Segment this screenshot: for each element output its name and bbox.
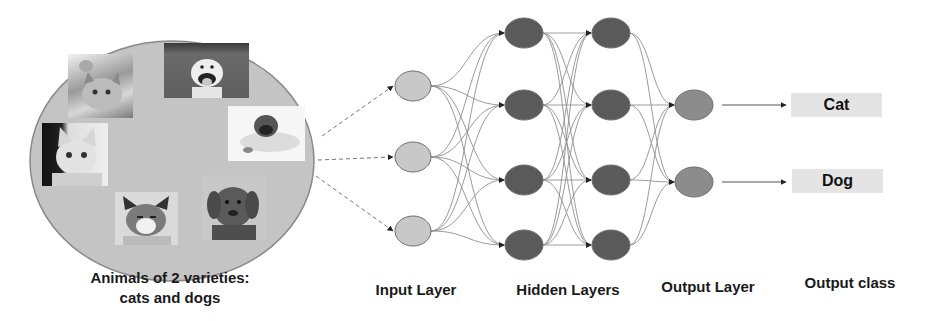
connection-edge bbox=[431, 33, 504, 157]
grumpy-cat-photo bbox=[115, 192, 178, 245]
hidden-node-l1-3 bbox=[505, 165, 543, 195]
input-arrow bbox=[322, 86, 393, 136]
output-node-2 bbox=[675, 167, 713, 197]
hidden-node-l1-2 bbox=[505, 90, 543, 120]
connections bbox=[316, 30, 786, 248]
connection-edge bbox=[431, 105, 504, 231]
hidden-node-l2-3 bbox=[592, 165, 630, 195]
input-layer-label: Input Layer bbox=[356, 280, 476, 300]
pug-lying-photo bbox=[228, 106, 305, 161]
retriever-photo bbox=[202, 175, 267, 240]
edge-arrowhead bbox=[499, 30, 505, 36]
hidden-node-l1-1 bbox=[505, 18, 543, 48]
cat-waving-photo bbox=[68, 54, 133, 118]
connection-edge bbox=[629, 105, 674, 245]
connection-edge bbox=[629, 33, 674, 105]
hidden-layers-label: Hidden Layers bbox=[503, 280, 633, 300]
edge-arrowhead bbox=[586, 30, 592, 36]
class-box-dog: Dog bbox=[792, 169, 883, 193]
connection-edge bbox=[542, 180, 591, 245]
input-node-2 bbox=[395, 142, 431, 172]
edge-arrowhead bbox=[669, 102, 675, 108]
pitbull-smiling-photo bbox=[164, 43, 249, 98]
connection-edge bbox=[629, 105, 674, 180]
class-box-cat: Cat bbox=[791, 93, 882, 117]
connection-edge bbox=[542, 33, 591, 105]
edge-arrowhead bbox=[499, 102, 505, 108]
connection-edge bbox=[542, 33, 591, 180]
white-cat-photo bbox=[42, 123, 108, 186]
edge-arrowhead bbox=[499, 177, 505, 183]
input-arrow bbox=[318, 157, 393, 160]
edge-arrowhead bbox=[586, 102, 592, 108]
output-layer-label: Output Layer bbox=[648, 277, 768, 297]
dataset-caption-line2: cats and dogs bbox=[60, 288, 280, 308]
connection-edge bbox=[629, 180, 674, 182]
hidden-node-l2-4 bbox=[592, 230, 630, 260]
output-node-1 bbox=[675, 90, 713, 120]
hidden-node-l1-4 bbox=[505, 230, 543, 260]
dataset-caption: Animals of 2 varieties: cats and dogs bbox=[60, 268, 280, 308]
hidden-node-l2-1 bbox=[592, 18, 630, 48]
input-arrow bbox=[316, 176, 393, 231]
input-node-3 bbox=[395, 216, 431, 246]
dataset-caption-line1: Animals of 2 varieties: bbox=[60, 268, 280, 288]
edge-arrowhead bbox=[499, 242, 505, 248]
input-node-1 bbox=[395, 71, 431, 101]
edge-arrowhead bbox=[669, 179, 675, 185]
edge-arrowhead bbox=[586, 177, 592, 183]
connection-edge bbox=[431, 33, 504, 86]
connection-edge bbox=[629, 182, 674, 245]
connection-edge bbox=[431, 231, 504, 245]
edge-arrowhead bbox=[586, 242, 592, 248]
hidden-node-l2-2 bbox=[592, 90, 630, 120]
output-class-label: Output class bbox=[790, 273, 910, 293]
